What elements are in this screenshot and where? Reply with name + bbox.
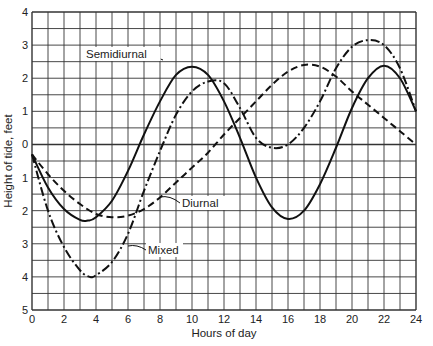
y-tick-label: 1 (22, 172, 28, 184)
tide-chart: SemidiurnalDiurnalMixed 0246810121416182… (0, 0, 433, 346)
x-tick-label: 14 (250, 313, 262, 325)
x-tick-label: 24 (410, 313, 422, 325)
y-tick-label: 2 (22, 72, 28, 84)
x-tick-label: 8 (157, 313, 163, 325)
x-tick-label: 22 (378, 313, 390, 325)
x-tick-label: 4 (93, 313, 99, 325)
x-tick-label: 2 (61, 313, 67, 325)
y-tick-label: 3 (22, 238, 28, 250)
x-tick-label: 0 (29, 313, 35, 325)
x-tick-label: 10 (186, 313, 198, 325)
x-tick-label: 6 (125, 313, 131, 325)
annotation-leader-mixed (128, 246, 146, 251)
x-axis-label: Hours of day (191, 327, 256, 339)
annotation-diurnal: Diurnal (182, 197, 218, 209)
x-tick-labels: 024681012141618202224 (29, 313, 422, 325)
y-axis-label: Height of tide, feet (2, 114, 14, 208)
annotation-semidiurnal: Semidiurnal (86, 48, 147, 60)
x-tick-label: 16 (282, 313, 294, 325)
y-tick-label: 4 (22, 6, 28, 18)
y-tick-label: 1 (22, 105, 28, 117)
y-tick-label: 2 (22, 205, 28, 217)
annotation-mixed: Mixed (148, 244, 179, 256)
y-tick-label: 0 (22, 138, 28, 150)
y-tick-label: 5 (22, 304, 28, 316)
x-tick-label: 12 (218, 313, 230, 325)
y-tick-label: 4 (22, 271, 28, 283)
x-tick-label: 18 (314, 313, 326, 325)
annotation-leader-diurnal (160, 197, 180, 203)
x-tick-label: 20 (346, 313, 358, 325)
y-tick-label: 3 (22, 39, 28, 51)
y-tick-labels: 4321012345 (22, 6, 28, 316)
